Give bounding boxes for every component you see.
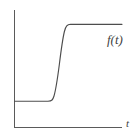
axes-group [14,10,122,128]
x-axis-label: t [126,118,129,129]
sigmoid-curve [15,24,123,101]
curve-group [15,24,123,101]
function-plot-figure: f(t) t [0,0,138,137]
plot-canvas [0,0,138,137]
curve-label: f(t) [107,33,123,46]
